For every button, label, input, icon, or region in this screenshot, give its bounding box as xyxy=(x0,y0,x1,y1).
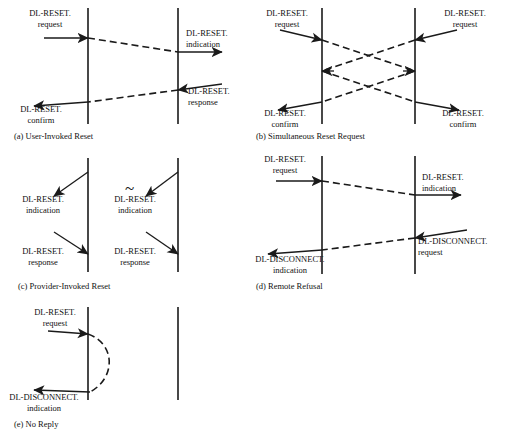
label-reset-indication-right: DL-RESET.indication xyxy=(422,172,494,193)
label-reset-response-right: DL-RESET.response xyxy=(98,246,172,267)
label-disconnect-indication-left: DL-DISCONNECT.indication xyxy=(2,392,86,413)
label-reset-request-left: DL-RESET.request xyxy=(254,154,316,175)
label-reset-request-left: DL-RESET.request xyxy=(254,8,320,29)
arrow-reset-request xyxy=(48,331,88,334)
panel-simultaneous-reset-request: DL-RESET.request DL-RESET.request DL-RES… xyxy=(254,0,508,150)
panel-c-canvas xyxy=(0,150,254,300)
pdu-reset-forward xyxy=(88,38,178,52)
panel-b-caption: (b) Simultaneous Reset Request xyxy=(256,131,365,141)
arrow-reset-request-right xyxy=(415,30,457,40)
pdu-reset-back xyxy=(88,90,178,102)
pdu-disconnect-back xyxy=(322,238,415,250)
label-reset-confirm-right: DL-RESET.confirm xyxy=(430,108,496,129)
label-disconnect-request-right: DL-DISCONNECT.request xyxy=(418,236,506,257)
label-disconnect-indication-left: DL-DISCONNECT.indication xyxy=(250,254,330,275)
arrow-reset-indication-right xyxy=(146,172,178,196)
panel-no-reply: DL-RESET.request DL-DISCONNECT.indicatio… xyxy=(0,300,254,445)
label-reset-request-left: DL-RESET.request xyxy=(14,8,86,29)
label-reset-response-right: DL-RESET.response xyxy=(188,86,254,107)
panel-provider-invoked-reset: ~ DL-RESET.indication DL-RESET.response … xyxy=(0,150,254,300)
panel-c-caption: (c) Provider-Invoked Reset xyxy=(18,281,110,291)
label-reset-confirm-left: DL-RESET.confirm xyxy=(254,108,316,129)
panel-remote-refusal: DL-RESET.request DL-RESET.indication DL-… xyxy=(254,150,508,300)
panel-user-invoked-reset: DL-RESET.request DL-RESET.indication DL-… xyxy=(0,0,254,150)
label-reset-confirm-left: DL-RESET.confirm xyxy=(8,104,74,125)
pdu-timeout-loop xyxy=(88,334,109,392)
arrow-reset-indication-left xyxy=(54,172,88,196)
label-reset-indication-right: DL-RESET.indication xyxy=(186,28,254,49)
label-reset-indication-left: DL-RESET.indication xyxy=(6,194,80,215)
panel-a-caption: (a) User-Invoked Reset xyxy=(14,131,93,141)
panel-e-caption: (e) No Reply xyxy=(14,419,58,429)
label-reset-response-left: DL-RESET.response xyxy=(6,246,80,267)
arrow-reset-request-left xyxy=(280,30,322,40)
label-reset-request-right: DL-RESET.request xyxy=(430,8,500,29)
label-reset-indication-right: DL-RESET.indication xyxy=(98,194,172,215)
label-reset-request-left: DL-RESET.request xyxy=(22,307,88,328)
panel-d-caption: (d) Remote Refusal xyxy=(256,281,323,291)
pdu-reset-forward xyxy=(322,181,415,195)
